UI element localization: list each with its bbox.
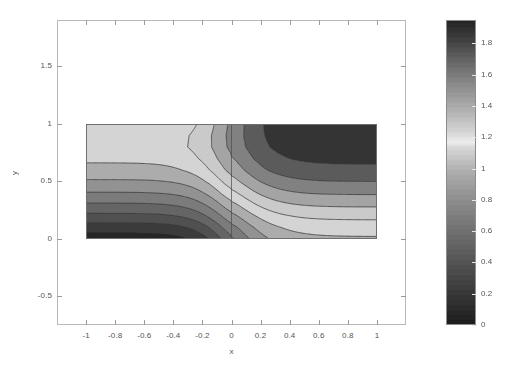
colorbar-tick-mark — [472, 200, 477, 201]
colorbar-tick-label: 1 — [481, 165, 486, 173]
x-tick-label: -1 — [82, 332, 89, 340]
x-tick-label: -0.6 — [137, 332, 151, 340]
x-tick-mark — [319, 320, 320, 325]
colorbar-tick-mark — [472, 325, 477, 326]
y-tick-label: 0 — [27, 235, 52, 243]
x-tick-label: 0.2 — [255, 332, 266, 340]
colorbar-tick-mark — [472, 231, 477, 232]
x-tick-mark — [348, 320, 349, 325]
y-tick-mark — [57, 124, 62, 125]
y-tick-mark — [57, 239, 62, 240]
colorbar-tick-mark — [472, 43, 477, 44]
contour-lines-overlay — [86, 124, 377, 239]
colorbar-tick-label: 1.2 — [481, 133, 492, 141]
y-axis-title: y — [10, 171, 19, 175]
colorbar-tick-mark — [472, 262, 477, 263]
x-tick-mark — [261, 320, 262, 325]
x-tick-mark — [86, 320, 87, 325]
x-tick-label: 0.6 — [313, 332, 324, 340]
contour-figure: -1-0.8-0.6-0.4-0.200.20.40.60.81 -0.500.… — [0, 0, 506, 388]
x-tick-mark-top — [86, 20, 87, 25]
colorbar-tick-label: 0.8 — [481, 196, 492, 204]
x-tick-mark — [202, 320, 203, 325]
y-tick-label: 0.5 — [27, 177, 52, 185]
colorbar-tick-mark — [472, 106, 477, 107]
y-tick-label: 1 — [27, 120, 52, 128]
y-tick-mark-right — [401, 239, 406, 240]
y-tick-mark-right — [401, 181, 406, 182]
x-tick-mark-top — [144, 20, 145, 25]
colorbar-tick-label: 1.4 — [481, 102, 492, 110]
x-tick-mark-top — [115, 20, 116, 25]
colorbar-tick-label: 0.6 — [481, 227, 492, 235]
colorbar-tick-label: 0.2 — [481, 290, 492, 298]
x-tick-label: -0.2 — [195, 332, 209, 340]
x-tick-mark-top — [377, 20, 378, 25]
x-tick-mark — [115, 320, 116, 325]
colorbar-tick-label: 0 — [481, 321, 486, 329]
colorbar-tick-label: 0.4 — [481, 258, 492, 266]
y-tick-mark — [57, 181, 62, 182]
x-tick-label: 0.4 — [284, 332, 295, 340]
x-tick-mark-top — [261, 20, 262, 25]
y-tick-mark-right — [401, 66, 406, 67]
x-tick-mark-top — [290, 20, 291, 25]
colorbar-frame — [446, 20, 476, 325]
x-tick-mark — [377, 320, 378, 325]
y-tick-mark-right — [401, 296, 406, 297]
y-tick-mark — [57, 296, 62, 297]
x-tick-mark-top — [173, 20, 174, 25]
colorbar-tick-label: 1.6 — [481, 71, 492, 79]
x-tick-mark-top — [319, 20, 320, 25]
colorbar-tick-mark — [472, 169, 477, 170]
colorbar-tick-label: 1.8 — [481, 39, 492, 47]
x-tick-mark — [290, 320, 291, 325]
y-tick-mark — [57, 66, 62, 67]
x-tick-label: -0.8 — [108, 332, 122, 340]
x-tick-mark-top — [232, 20, 233, 25]
colorbar-tick-mark — [472, 137, 477, 138]
y-tick-label: 1.5 — [27, 62, 52, 70]
x-tick-mark — [173, 320, 174, 325]
x-tick-label: 1 — [375, 332, 380, 340]
x-tick-mark-top — [348, 20, 349, 25]
x-tick-mark — [232, 320, 233, 325]
x-axis-title: x — [230, 347, 234, 356]
colorbar-tick-mark — [472, 75, 477, 76]
x-tick-label: 0 — [229, 332, 234, 340]
y-tick-mark-right — [401, 124, 406, 125]
x-tick-mark-top — [202, 20, 203, 25]
x-tick-label: -0.4 — [166, 332, 180, 340]
colorbar-tick-mark — [472, 294, 477, 295]
x-tick-mark — [144, 320, 145, 325]
y-tick-label: -0.5 — [27, 292, 52, 300]
x-tick-label: 0.8 — [342, 332, 353, 340]
